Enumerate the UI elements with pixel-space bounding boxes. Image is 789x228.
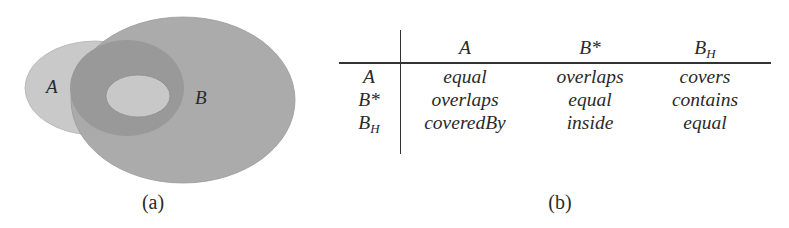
table-cell: coveredBy: [424, 113, 506, 133]
table-cell: inside: [567, 113, 614, 133]
table-cell: covers: [680, 67, 731, 87]
table-cell: equal: [683, 113, 726, 133]
row-header-b-star: B*: [358, 90, 380, 112]
region-diagram: A B: [0, 0, 340, 228]
row-header-b-h: BH: [358, 113, 379, 135]
table-cell: overlaps: [431, 90, 498, 110]
inner-core-ellipse: [106, 75, 170, 117]
table-header-rule: [339, 62, 771, 64]
table-cell: overlaps: [556, 67, 623, 87]
column-header-b-star: B*: [579, 38, 601, 60]
column-header-a: A: [459, 38, 471, 60]
table-vertical-rule: [400, 30, 401, 154]
row-header-a: A: [363, 67, 375, 89]
table-cell: equal: [568, 90, 611, 110]
region-b-label: B: [195, 87, 207, 108]
table-cell: contains: [672, 90, 738, 110]
region-a-label: A: [44, 76, 58, 97]
caption-b: (b): [548, 191, 571, 214]
table-cell: equal: [443, 67, 486, 87]
caption-a: (a): [142, 191, 164, 214]
column-header-b-h: BH: [694, 38, 715, 60]
